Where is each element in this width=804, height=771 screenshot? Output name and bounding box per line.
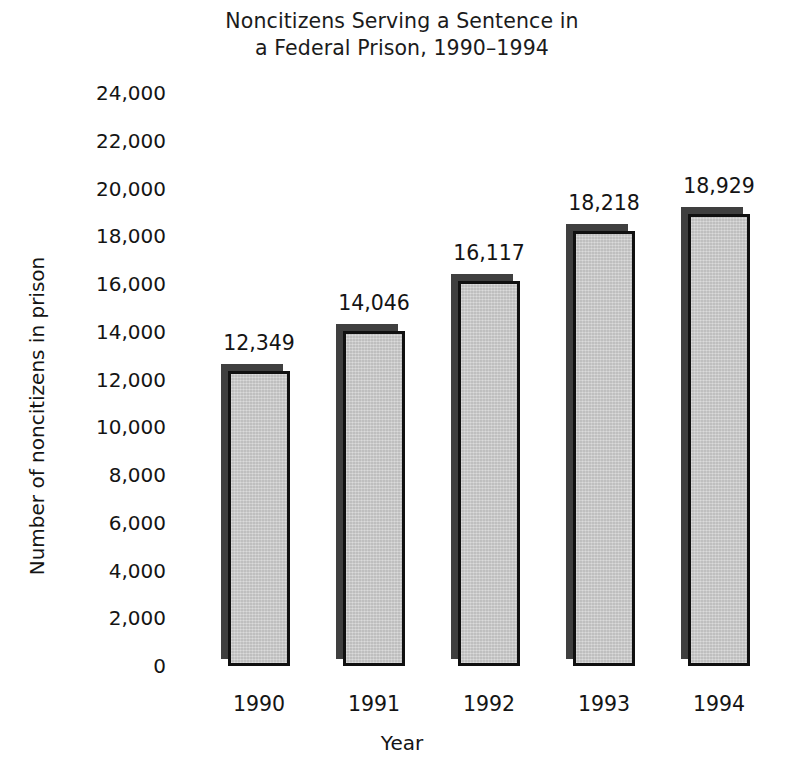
bar-group[interactable] — [336, 324, 405, 666]
bar-face[interactable] — [688, 214, 750, 666]
bar-group[interactable] — [451, 274, 520, 666]
bar-value-label: 18,929 — [649, 176, 789, 197]
bar-group[interactable] — [566, 224, 635, 666]
bar-face[interactable] — [343, 331, 405, 666]
bar-group[interactable] — [681, 207, 750, 666]
chart-plot-area: Number of noncitizens in prison 24,00022… — [0, 0, 804, 771]
bar-face[interactable] — [573, 231, 635, 666]
bar-group[interactable] — [221, 364, 290, 666]
bar-value-label: 16,117 — [419, 243, 559, 264]
bar-face[interactable] — [458, 281, 520, 666]
x-axis-title: Year — [0, 731, 804, 755]
x-axis-tick-label: 1994 — [649, 694, 789, 715]
bar-face[interactable] — [228, 371, 290, 666]
bar-value-label: 14,046 — [304, 293, 444, 314]
bars-layer: 12,349199014,046199116,117199218,2181993… — [0, 0, 804, 771]
bar-value-label: 12,349 — [189, 333, 329, 354]
